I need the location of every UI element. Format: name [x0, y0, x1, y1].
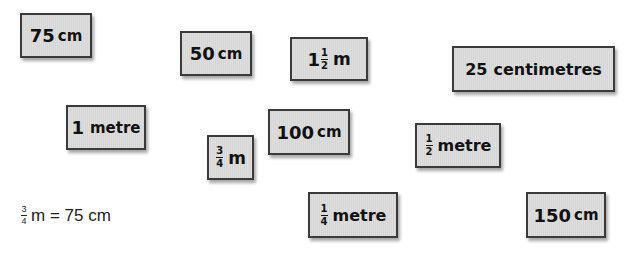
- card-fraction: 1 4: [321, 204, 328, 227]
- card-unit: metre: [90, 119, 141, 137]
- card-unit: centimetres: [493, 60, 601, 79]
- card-100cm[interactable]: 100 cm: [268, 109, 350, 155]
- fraction-numerator: 1: [321, 204, 328, 214]
- card-unit: cm: [218, 45, 243, 63]
- card-whole: 1: [307, 49, 320, 70]
- fraction-denominator: 4: [321, 217, 328, 227]
- card-75cm[interactable]: 75 cm: [20, 13, 92, 58]
- card-quarter-metre[interactable]: 1 4 metre: [308, 192, 398, 238]
- example-equation: 3 4 m = 75 cm: [20, 205, 111, 226]
- fraction-denominator: 2: [426, 147, 433, 157]
- card-value: 75: [30, 25, 55, 46]
- card-unit: cm: [317, 123, 342, 141]
- card-unit: m: [228, 148, 246, 168]
- card-1-and-a-half-m[interactable]: 1 1 2 m: [290, 37, 368, 81]
- card-fraction: 1 2: [426, 134, 433, 157]
- example-fraction: 3 4: [21, 205, 27, 226]
- card-150cm[interactable]: 150 cm: [526, 192, 606, 238]
- card-value: 25: [465, 60, 487, 79]
- fraction-numerator: 3: [216, 146, 223, 156]
- card-unit: cm: [574, 206, 599, 224]
- card-50cm[interactable]: 50 cm: [180, 31, 252, 76]
- card-value: 50: [190, 43, 215, 64]
- fraction-denominator: 4: [21, 217, 26, 226]
- card-value: 100: [276, 122, 314, 143]
- fraction-denominator: 4: [216, 159, 223, 169]
- fraction-denominator: 2: [321, 61, 328, 71]
- card-half-metre[interactable]: 1 2 metre: [415, 123, 501, 168]
- card-unit: m: [333, 49, 351, 69]
- example-text: m = 75 cm: [31, 206, 111, 226]
- card-1-metre[interactable]: 1 metre: [66, 105, 146, 150]
- card-value: 150: [533, 205, 571, 226]
- fraction-numerator: 1: [321, 48, 328, 58]
- fraction-numerator: 1: [426, 134, 433, 144]
- card-value: 1: [71, 117, 84, 138]
- card-unit: metre: [333, 206, 387, 225]
- card-fraction: 3 4: [216, 146, 223, 169]
- card-unit: metre: [438, 136, 492, 155]
- card-unit: cm: [58, 27, 83, 45]
- card-three-quarter-m[interactable]: 3 4 m: [207, 135, 254, 180]
- card-fraction: 1 2: [321, 48, 328, 71]
- card-25-centimetres[interactable]: 25 centimetres: [452, 46, 615, 92]
- fraction-numerator: 3: [21, 205, 26, 214]
